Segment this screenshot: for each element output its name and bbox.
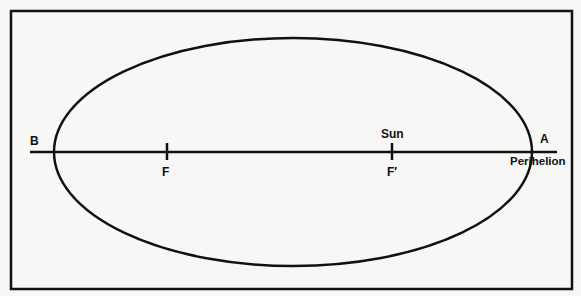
label-focus-f: F — [162, 165, 169, 179]
label-point-b: B — [30, 134, 39, 148]
label-point-a: A — [540, 132, 549, 146]
label-perihelion: Perihelion — [510, 155, 566, 167]
orbit-diagram: B F Sun F′ A Perihelion — [0, 0, 581, 296]
label-focus-f-prime: F′ — [387, 165, 397, 179]
label-sun: Sun — [381, 127, 404, 141]
frame-border — [11, 11, 572, 289]
